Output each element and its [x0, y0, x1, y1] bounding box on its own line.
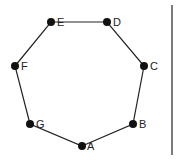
vertex-a: A: [78, 140, 95, 152]
vertex-f: F: [11, 60, 28, 72]
vertex-label: B: [139, 118, 146, 130]
heptagon-outline: [15, 22, 144, 146]
vertex-label: C: [150, 60, 158, 72]
vertex-label: D: [113, 16, 121, 28]
vertex-label: A: [87, 140, 95, 152]
vertex-label: F: [21, 60, 28, 72]
vertex-label: E: [57, 16, 64, 28]
heptagon-diagram: A B C D E F G: [0, 0, 181, 162]
vertex-label: G: [36, 118, 45, 130]
vertex-d: D: [103, 16, 121, 28]
vertex-b: B: [129, 118, 146, 130]
